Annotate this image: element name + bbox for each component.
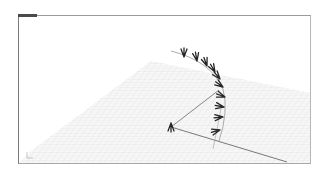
scene-canvas[interactable] xyxy=(19,16,310,163)
viewport-title-tab[interactable]: Perspective xyxy=(18,14,37,17)
construction-plane-grid xyxy=(19,61,310,163)
perspective-viewport[interactable] xyxy=(18,15,311,164)
